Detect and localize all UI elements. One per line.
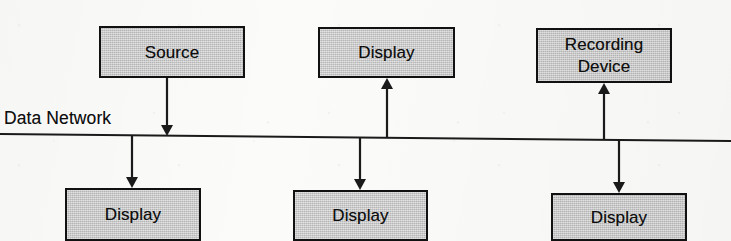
network-diagram: SourceDisplayRecording DeviceDisplayDisp… <box>0 0 731 241</box>
arrowhead-bus-to-display-top <box>381 78 393 89</box>
node-box-display-bm[interactable]: Display <box>293 190 428 241</box>
node-box-display-bl[interactable]: Display <box>65 188 201 241</box>
node-label-display-bm: Display <box>332 205 388 226</box>
arrowhead-bus-to-display-bl <box>126 177 138 188</box>
node-box-display-top[interactable]: Display <box>318 27 455 78</box>
arrowhead-bus-to-recording <box>598 83 610 94</box>
node-label-display-top: Display <box>358 42 414 63</box>
node-box-source[interactable]: Source <box>99 26 245 78</box>
node-box-display-br[interactable]: Display <box>551 193 687 241</box>
node-label-source: Source <box>145 42 199 63</box>
node-label-recording: Recording Device <box>565 34 643 78</box>
node-label-display-br: Display <box>591 207 647 228</box>
node-box-recording[interactable]: Recording Device <box>536 28 672 83</box>
bus-line <box>0 134 731 141</box>
arrowhead-source-to-bus <box>161 125 173 136</box>
data-network-label: Data Network <box>4 108 111 129</box>
arrowhead-bus-to-display-bm <box>354 179 366 190</box>
data-network-bus-line <box>0 134 731 141</box>
node-label-display-bl: Display <box>105 204 161 225</box>
arrowhead-bus-to-display-br <box>613 182 625 193</box>
